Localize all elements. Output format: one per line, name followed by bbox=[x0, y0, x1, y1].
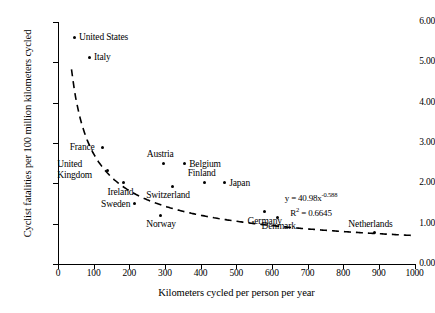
x-axis-title: Kilometers cycled per person per year bbox=[58, 287, 415, 298]
data-point-label: Italy bbox=[94, 52, 111, 62]
data-point[interactable] bbox=[73, 36, 76, 39]
data-point-label: Denmark bbox=[262, 221, 296, 231]
data-point-label: Austria bbox=[147, 149, 174, 159]
equation-exponent: -0.588 bbox=[322, 191, 338, 198]
data-point[interactable] bbox=[162, 162, 165, 165]
r-squared-superscript: 2 bbox=[296, 206, 299, 213]
data-point-label: Switzerland bbox=[146, 190, 190, 200]
equation-text: y = 40.98x bbox=[285, 193, 322, 203]
regression-equation: y = 40.98x-0.588 R2 = 0.6645 bbox=[268, 189, 354, 219]
data-point[interactable] bbox=[159, 214, 162, 217]
data-point-label: Netherlands bbox=[348, 219, 392, 229]
data-point-label: France bbox=[70, 142, 95, 152]
data-point[interactable] bbox=[171, 185, 174, 188]
equation-line: y = 40.98x-0.588 bbox=[268, 189, 354, 204]
data-point-label: Ireland bbox=[108, 187, 134, 197]
data-point-label: United States bbox=[79, 32, 128, 42]
scatter-chart: 0.001.002.003.004.005.006.00 01002003004… bbox=[0, 0, 435, 313]
r-squared-value: = 0.6645 bbox=[301, 208, 331, 218]
data-point-label: United Kingdom bbox=[57, 159, 101, 180]
data-point[interactable] bbox=[88, 56, 91, 59]
data-point[interactable] bbox=[203, 181, 206, 184]
data-point-label: Sweden bbox=[101, 199, 130, 209]
data-point-label: Japan bbox=[229, 178, 250, 188]
data-point-label: Finland bbox=[188, 168, 216, 178]
r-squared-line: R2 = 0.6645 bbox=[268, 204, 354, 219]
data-point[interactable] bbox=[106, 169, 109, 172]
data-point-label: Norway bbox=[146, 219, 176, 229]
trendline bbox=[0, 0, 435, 313]
y-axis-title: Cyclist fatalities per 100 million kilom… bbox=[22, 9, 33, 259]
